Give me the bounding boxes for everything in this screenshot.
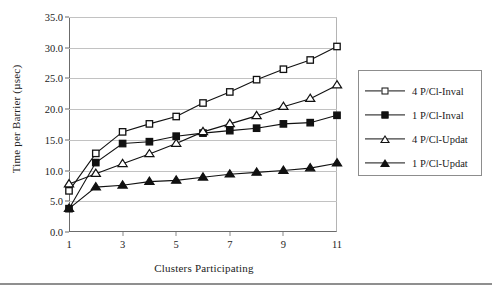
x-tick-label: 11 (332, 239, 342, 250)
data-point-square-filled (280, 121, 286, 127)
x-tick-label: 3 (120, 239, 125, 250)
data-point-square-open (66, 188, 72, 194)
data-point-square-filled (119, 140, 125, 146)
data-point-square-open (146, 121, 152, 127)
y-tick-label: 20.0 (45, 104, 63, 115)
x-tick-mark (229, 232, 230, 236)
y-tick-label: 30.0 (45, 42, 63, 53)
data-point-triangle-filled (332, 159, 341, 166)
legend-label: 1 P/Cl-Updat (412, 158, 468, 169)
x-tick-mark (283, 232, 284, 236)
y-tick-label: 0.0 (50, 227, 63, 238)
legend-item[interactable]: 4 P/Cl-Inval (365, 80, 477, 102)
y-tick-label: 25.0 (45, 73, 63, 84)
data-point-square-open (119, 129, 125, 135)
x-tick-mark (176, 232, 177, 236)
series-line (69, 163, 337, 208)
legend-marker-square-open-icon (382, 88, 389, 95)
legend-label: 1 P/Cl-Inval (412, 110, 464, 121)
data-point-square-open (227, 89, 233, 95)
y-tick-label: 10.0 (45, 165, 63, 176)
data-point-triangle-filled (252, 168, 261, 175)
series-4-p-cl-inval (66, 43, 340, 194)
data-point-triangle-filled (225, 170, 234, 177)
legend-marker-triangle-filled-icon (380, 159, 390, 167)
data-point-square-filled (227, 127, 233, 133)
x-tick-label: 9 (281, 239, 286, 250)
data-point-square-open (93, 150, 99, 156)
x-tick-mark (122, 232, 123, 236)
legend-sample-triangle-filled (365, 157, 405, 169)
data-point-square-open (280, 66, 286, 72)
data-point-square-filled (146, 139, 152, 145)
data-point-square-open (173, 113, 179, 119)
data-point-triangle-open (332, 81, 341, 88)
data-point-square-open (200, 100, 206, 106)
x-axis-title: Clusters Participating (70, 262, 338, 274)
legend-sample-square-filled (365, 109, 405, 121)
legend-sample-square-open (365, 85, 405, 97)
data-point-triangle-filled (91, 183, 100, 190)
series-4-p-cl-updat (64, 81, 341, 187)
data-point-square-filled (307, 119, 313, 125)
y-axis-title: Time per Barrier (µsec) (10, 39, 22, 199)
legend-item[interactable]: 1 P/Cl-Inval (365, 104, 477, 126)
legend-sample-triangle-open (365, 133, 405, 145)
legend-label: 4 P/Cl-Updat (412, 134, 468, 145)
series-layer (69, 17, 337, 232)
chart-figure: Time per Barrier (µsec) 0.05.010.015.020… (0, 0, 492, 291)
y-tick-label: 15.0 (45, 134, 63, 145)
legend-marker-triangle-open-icon (380, 135, 390, 143)
data-point-square-filled (334, 112, 340, 118)
data-point-triangle-open (306, 94, 315, 101)
x-tick-label: 5 (174, 239, 179, 250)
legend-item[interactable]: 4 P/Cl-Updat (365, 128, 477, 150)
page-rule (0, 283, 492, 285)
data-point-square-open (334, 43, 340, 49)
x-tick-label: 7 (227, 239, 232, 250)
legend-marker-square-filled-icon (382, 112, 389, 119)
data-point-triangle-filled (279, 166, 288, 173)
plot-area: 0.05.010.015.020.025.030.035.0 1357911 (69, 17, 337, 232)
y-tick-label: 5.0 (50, 196, 63, 207)
data-point-square-filled (253, 125, 259, 131)
chart-legend: 4 P/Cl-Inval1 P/Cl-Inval4 P/Cl-Updat1 P/… (358, 70, 482, 176)
legend-item[interactable]: 1 P/Cl-Updat (365, 152, 477, 174)
data-point-square-open (307, 57, 313, 63)
data-point-triangle-filled (145, 177, 154, 184)
legend-label: 4 P/Cl-Inval (412, 86, 464, 97)
y-tick-label: 35.0 (45, 12, 63, 23)
data-point-square-open (253, 76, 259, 82)
data-point-square-filled (93, 159, 99, 165)
series-1-p-cl-updat (64, 159, 341, 212)
x-tick-label: 1 (66, 239, 71, 250)
